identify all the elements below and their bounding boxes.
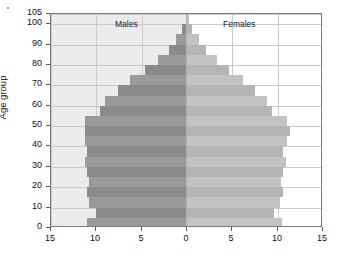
bar-female [187,106,272,116]
bar-male [87,218,187,227]
y-axis-tick-label: 20 [18,180,42,190]
bar-female [187,75,243,85]
bar-male [145,65,187,75]
x-axis-tick [277,227,278,231]
x-axis-tick-label: 5 [216,233,246,243]
y-axis-tick-label: 100 [18,17,42,27]
x-axis-tick-label: 15 [35,233,65,243]
bar-male [85,116,187,126]
y-axis-tick-label: 105 [18,7,42,17]
bar-female [187,146,283,156]
bar-male [118,85,187,95]
x-axis-tick-label: 15 [307,233,337,243]
x-axis-tick-label: 10 [262,233,292,243]
bar-male [87,146,187,156]
plot-area: Males Females [50,13,322,227]
y-axis-tick-label: 60 [18,99,42,109]
bar-male [85,136,187,146]
x-axis-tick [50,227,51,231]
bar-female [187,136,287,146]
bar-female [187,24,192,34]
series-label-females: Females [223,19,256,29]
x-axis-tick [141,227,142,231]
x-axis-tick-label: 0 [171,233,201,243]
bar-male [89,197,187,207]
bar-male [85,157,187,167]
y-axis-title: Age group [0,63,8,133]
bar-male [87,187,187,197]
bar-female [187,85,255,95]
y-axis-tick-label: 50 [18,119,42,129]
bar-female [187,167,283,177]
center-axis-line [186,14,187,226]
x-axis-tick [186,227,187,231]
bar-male [105,96,187,106]
series-label-males: Males [115,19,138,29]
bar-male [169,45,187,55]
bar-male [158,55,187,65]
bar-female [187,218,282,227]
bar-male [130,75,187,85]
bar-female [187,177,281,187]
bar-female [187,55,217,65]
y-axis-tick-label: 40 [18,139,42,149]
population-pyramid-chart: Age group 0102030405060708090100105 1510… [0,0,339,262]
bar-male [85,126,187,136]
bar-female [187,96,267,106]
bar-male [96,208,187,218]
y-axis-tick-label: 0 [18,221,42,231]
y-axis-tick-label: 80 [18,58,42,68]
bar-female [187,14,189,24]
bar-female [187,126,290,136]
corner-artifact [7,7,9,9]
bar-female [187,208,274,218]
bar-male [89,177,187,187]
y-axis-tick-label: 70 [18,78,42,88]
x-axis-tick [322,227,323,231]
bar-female [187,116,287,126]
bar-female [187,45,206,55]
x-axis-tick [231,227,232,231]
x-axis-tick-label: 5 [126,233,156,243]
y-axis-tick-label: 30 [18,160,42,170]
x-axis-tick-label: 10 [80,233,110,243]
bar-female [187,197,280,207]
bar-female [187,157,286,167]
bar-female [187,187,283,197]
y-axis-tick-label: 90 [18,38,42,48]
bar-female [187,65,229,75]
x-axis-tick [95,227,96,231]
bar-male [87,167,187,177]
y-axis-tick-label: 10 [18,201,42,211]
bar-male [100,106,187,116]
bar-female [187,34,199,44]
